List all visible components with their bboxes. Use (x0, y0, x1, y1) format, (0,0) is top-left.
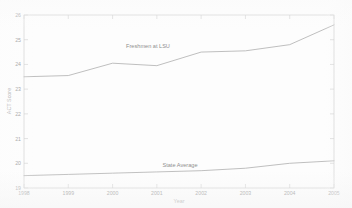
series-line-freshmen-at-lsu (24, 25, 334, 77)
act-score-line-chart: 26 25 24 23 22 21 20 19 1998 1999 2000 2… (0, 0, 352, 208)
x-tick-label: 2000 (107, 190, 119, 196)
chart-figure: 26 25 24 23 22 21 20 19 1998 1999 2000 2… (0, 0, 352, 208)
series-annotation-freshmen-at-lsu: Freshmen at LSU (126, 43, 170, 49)
x-tick-label: 2002 (195, 190, 207, 196)
y-tick-label: 24 (15, 61, 21, 67)
y-tick-label: 22 (15, 111, 21, 117)
y-tick-label: 21 (15, 136, 21, 142)
y-tick-label: 20 (15, 160, 21, 166)
y-tick-label: 23 (15, 86, 21, 92)
x-tick-label: 2005 (328, 190, 340, 196)
x-tick-label: 2003 (240, 190, 252, 196)
y-axis-title: ACT Score (6, 88, 12, 114)
y-tick-label: 25 (15, 37, 21, 43)
x-tick-label: 1998 (18, 190, 30, 196)
x-tick-labels: 1998 1999 2000 2001 2002 2003 2004 2005 (18, 190, 340, 196)
x-tick-label: 2001 (151, 190, 163, 196)
y-tick-label: 26 (15, 12, 21, 18)
x-axis-title: Year (174, 198, 185, 204)
series-annotation-state-average: State Average (162, 162, 197, 168)
x-tick-label: 1999 (63, 190, 75, 196)
x-tick-label: 2004 (284, 190, 296, 196)
y-tick-labels: 26 25 24 23 22 21 20 19 (15, 12, 21, 191)
